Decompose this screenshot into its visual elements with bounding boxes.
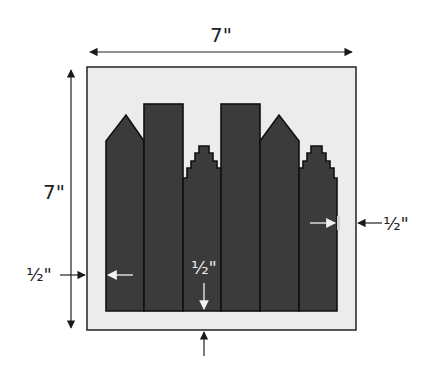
right-margin-label: ½"	[383, 213, 409, 234]
peaked-building-5	[260, 115, 299, 311]
peaked-building-1	[106, 115, 144, 311]
stepped-building-3	[183, 146, 221, 311]
skyline-block-diagram: 7" 7" ½" ½" ½"	[0, 0, 432, 374]
stepped-building-6	[299, 146, 337, 311]
width-label: 7"	[210, 23, 232, 47]
right-margin-gap-mark	[337, 216, 340, 230]
left-margin-label: ½"	[26, 264, 52, 285]
tall-flat-building-4	[221, 104, 260, 311]
bottom-margin-label: ½"	[191, 257, 217, 278]
tall-flat-building-2	[144, 104, 183, 311]
height-label: 7"	[43, 180, 65, 204]
